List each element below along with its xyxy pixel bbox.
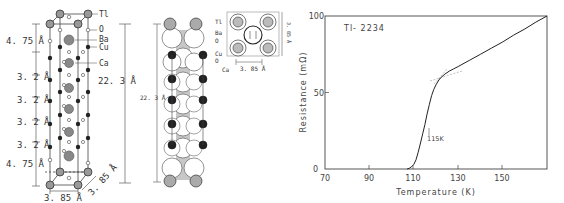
panel-b-space-filling-model: 22. 3 Å (140, 12, 292, 187)
tc-annotation: 115K (427, 135, 444, 143)
atom-label-o-b: O (215, 37, 219, 44)
inset-height-label: 3. 85 Å (286, 22, 292, 43)
x-tick-70: 70 (320, 174, 330, 183)
c-axis-label: 22. 3 Å (98, 75, 137, 86)
resistance-chart: 0 50 100 70 90 110 130 150 Temperature (… (299, 12, 547, 197)
x-tick-90: 90 (364, 174, 374, 183)
x-axis-label: Temperature (K) (395, 188, 476, 197)
x-tick-110: 110 (405, 174, 420, 183)
panel-a-crystal-structure: 4. 75 Å 3. 2 Å 3. 2 Å 3. 2 Å 3. 2 Å 4. 7… (6, 10, 137, 203)
x-tick-130: 130 (450, 174, 465, 183)
plot-frame (325, 16, 547, 169)
inset-top-view: 3. 85 Å 3. 85 Å (227, 12, 292, 72)
atom-label-o2-b: O (215, 57, 219, 64)
a-axis-label: 3. 85 Å (44, 192, 83, 203)
figure-canvas: 4. 75 Å 3. 2 Å 3. 2 Å 3. 2 Å 3. 2 Å 4. 7… (0, 0, 564, 203)
sample-label: Tl- 2234 (343, 24, 385, 33)
y-tick-50: 50 (314, 89, 324, 98)
x-tick-150: 150 (494, 174, 509, 183)
atom-label-o: O (99, 25, 104, 34)
spacing-label-6: 4. 75 Å (6, 158, 45, 169)
spacing-label-4: 3. 2 Å (17, 116, 50, 127)
spacing-label-5: 3. 2 Å (17, 139, 50, 150)
spacing-label-3: 3. 2 Å (17, 94, 50, 105)
atom-label-ca-b: Ca (222, 66, 230, 73)
resistance-curve (407, 16, 547, 169)
atom-label-tl-b: Tl (215, 18, 223, 25)
y-tick-0: 0 (313, 165, 318, 174)
spacing-label-2: 3. 2 Å (17, 71, 50, 82)
atom-label-cu-b: Cu (215, 50, 223, 57)
atom-label-tl: Tl (99, 10, 109, 19)
atom-label-ca: Ca (99, 59, 109, 68)
b-axis-label: 3. 85 Å (85, 161, 119, 197)
y-axis-label: Resistance (mΩ) (299, 52, 308, 133)
spacing-label-1: 4. 75 Å (6, 35, 45, 46)
y-tick-100: 100 (309, 12, 324, 21)
atom-label-cu: Cu (99, 43, 109, 52)
atom-label-ba-b: Ba (215, 29, 223, 36)
inset-axis-label: 3. 85 Å (240, 65, 266, 72)
c-axis-label-b: 22. 3 Å (140, 94, 166, 101)
